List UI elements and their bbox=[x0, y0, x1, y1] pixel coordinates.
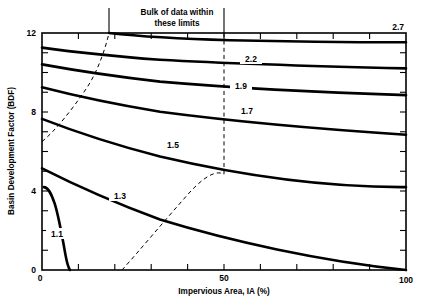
y-ticklabel-4: 4 bbox=[31, 186, 36, 196]
x-ticklabel-100: 100 bbox=[399, 275, 413, 285]
contour-curve-2-7 bbox=[109, 33, 406, 42]
x-ticklabel-0: 0 bbox=[38, 273, 43, 283]
contour-label-2-2: 2.2 bbox=[245, 54, 257, 64]
contour-label-1-5: 1.5 bbox=[167, 140, 179, 150]
envelope-right-branch-diagonal bbox=[122, 173, 224, 270]
contour-label-1-7: 1.7 bbox=[241, 106, 253, 116]
y-ticklabel-8: 8 bbox=[31, 107, 36, 117]
contour-label-2-7: 2.7 bbox=[392, 22, 404, 32]
contour-label-1-3: 1.3 bbox=[114, 191, 126, 201]
y-ticklabel-0: 0 bbox=[31, 265, 36, 275]
contour-label-1-1: 1.1 bbox=[51, 229, 63, 239]
contour-curve-1-3 bbox=[42, 168, 406, 270]
x-ticklabel-50: 50 bbox=[219, 273, 229, 283]
y-axis-title: Basin Development Factor (BDF) bbox=[7, 87, 16, 215]
chart-svg: Bulk of data within these limits 2.7 bbox=[0, 0, 422, 298]
x-axis-title: Impervious Area, IA (%) bbox=[178, 287, 270, 296]
annotation-line-2: these limits bbox=[154, 19, 199, 28]
chart-figure: Bulk of data within these limits 2.7 bbox=[0, 0, 422, 298]
y-ticklabel-12: 12 bbox=[27, 28, 37, 38]
contour-label-1-9: 1.9 bbox=[235, 81, 247, 91]
annotation-line-1: Bulk of data within bbox=[141, 8, 214, 17]
